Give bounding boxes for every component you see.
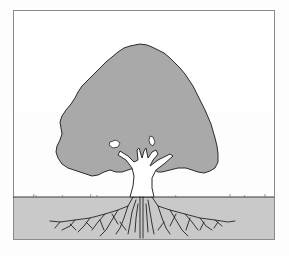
illustration xyxy=(0,0,289,256)
soil-area xyxy=(13,197,274,240)
tree-illustration xyxy=(0,0,289,256)
